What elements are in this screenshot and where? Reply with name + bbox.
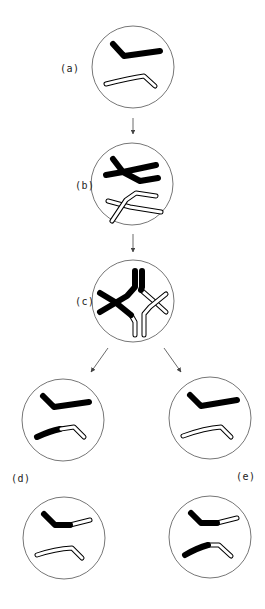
stage-e-cell-1 <box>169 377 251 459</box>
black-chromosome <box>113 44 160 56</box>
label-b: (b) <box>75 180 95 191</box>
label-d: (d) <box>11 473 31 484</box>
label-e: (e) <box>236 471 256 482</box>
stage-c-cell <box>92 260 174 342</box>
crossing-over-diagram <box>0 0 265 609</box>
arrow-c-e <box>164 348 181 372</box>
stage-d-cell-1 <box>22 379 104 461</box>
stage-b-cell <box>91 143 173 225</box>
label-c: (c) <box>75 296 95 307</box>
stage-e-cell-2 <box>169 496 251 578</box>
label-a: (a) <box>60 63 80 74</box>
stage-a-cell <box>92 26 174 108</box>
stage-d-cell-2 <box>23 497 105 579</box>
arrow-c-d <box>91 348 108 372</box>
